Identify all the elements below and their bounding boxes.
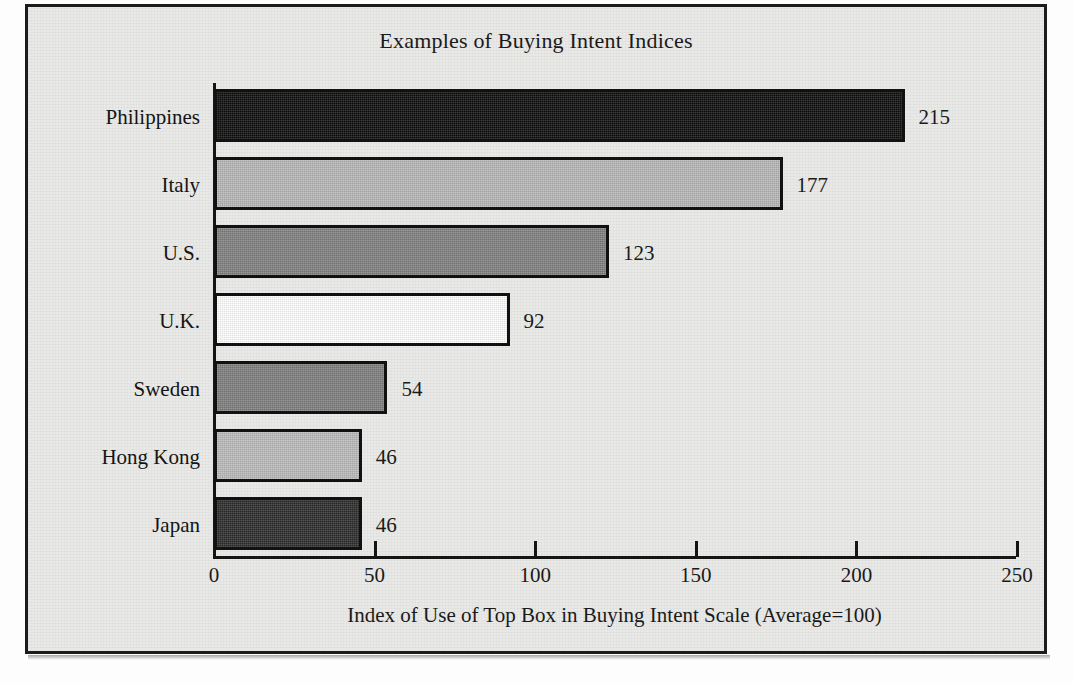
category-label-philippines: Philippines	[28, 105, 200, 130]
x-axis-title: Index of Use of Top Box in Buying Intent…	[213, 603, 1016, 628]
figure-frame: Examples of Buying Intent Indices 050100…	[25, 4, 1047, 654]
bar-fill	[217, 364, 384, 411]
bar-row: Philippines215	[28, 83, 1044, 151]
bar-fill	[217, 500, 359, 547]
category-label-italy: Italy	[28, 173, 200, 198]
bar-fill	[217, 92, 902, 139]
value-label-u-k: 92	[524, 309, 545, 334]
bar-row: Japan46	[28, 491, 1044, 559]
bar-fill	[217, 432, 359, 479]
bar-fill	[217, 228, 606, 275]
value-label-u-s: 123	[623, 241, 655, 266]
value-label-philippines: 215	[919, 105, 951, 130]
bar-row: Hong Kong46	[28, 423, 1044, 491]
value-label-sweden: 54	[401, 377, 422, 402]
x-tick-label-200: 200	[816, 563, 896, 588]
bar-fill	[217, 160, 780, 207]
category-label-u-s: U.S.	[28, 241, 200, 266]
bar-italy[interactable]	[214, 157, 783, 210]
scanned-page: Examples of Buying Intent Indices 050100…	[0, 0, 1073, 683]
bar-row: U.K.92	[28, 287, 1044, 355]
value-label-hong-kong: 46	[376, 445, 397, 470]
bar-chart-plot: 050100150200250 Philippines215Italy177U.…	[28, 7, 1044, 651]
x-tick-label-50: 50	[335, 563, 415, 588]
category-label-u-k: U.K.	[28, 309, 200, 334]
category-label-sweden: Sweden	[28, 377, 200, 402]
bar-u-s[interactable]	[214, 225, 609, 278]
x-tick-label-150: 150	[656, 563, 736, 588]
page-shadow	[28, 655, 1050, 660]
x-tick-label-0: 0	[174, 563, 254, 588]
value-label-japan: 46	[376, 513, 397, 538]
bar-japan[interactable]	[214, 497, 362, 550]
bar-row: Sweden54	[28, 355, 1044, 423]
category-label-japan: Japan	[28, 513, 200, 538]
x-tick-label-250: 250	[977, 563, 1057, 588]
x-tick-label-100: 100	[495, 563, 575, 588]
bar-hong-kong[interactable]	[214, 429, 362, 482]
category-label-hong-kong: Hong Kong	[28, 445, 200, 470]
bar-fill	[217, 296, 507, 343]
value-label-italy: 177	[797, 173, 829, 198]
bar-sweden[interactable]	[214, 361, 387, 414]
bar-philippines[interactable]	[214, 89, 905, 142]
bar-u-k[interactable]	[214, 293, 510, 346]
bar-row: U.S.123	[28, 219, 1044, 287]
bar-row: Italy177	[28, 151, 1044, 219]
